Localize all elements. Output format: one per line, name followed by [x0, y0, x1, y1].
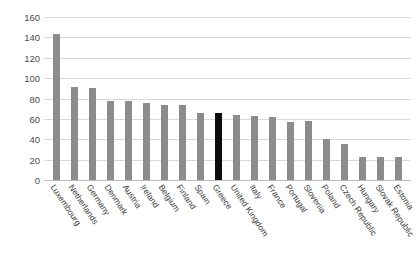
x-axis-labels: LuxembourgNetherlandsGermanyDenmarkAustr…: [44, 181, 411, 260]
x-label-slot: Austria: [119, 181, 137, 260]
y-tick-label: 40: [2, 135, 40, 144]
bar-czech-republic: [341, 144, 348, 180]
x-label-slot: Portugal: [282, 181, 300, 260]
bar-germany: [89, 88, 96, 180]
bar-poland: [323, 139, 330, 180]
bar-italy: [251, 116, 258, 180]
bar-spain: [197, 113, 204, 180]
bar-slovak-republic: [377, 157, 384, 180]
bar-slot: [246, 17, 264, 180]
x-label-slot: Hungary: [354, 181, 372, 260]
bar-netherlands: [71, 87, 78, 180]
bar-slot: [372, 17, 390, 180]
y-tick-label: 100: [2, 74, 40, 83]
bar-austria: [125, 101, 132, 180]
y-tick-label: 60: [2, 114, 40, 123]
bar-luxembourg: [53, 34, 60, 180]
bar-slot: [336, 17, 354, 180]
bar-denmark: [107, 101, 114, 180]
bar-belgium: [161, 105, 168, 180]
bar-slot: [264, 17, 282, 180]
x-label-slot: Netherlands: [65, 181, 83, 260]
bar-chart: 020406080100120140160 LuxembourgNetherla…: [0, 0, 419, 260]
x-label-slot: United Kingdom: [227, 181, 245, 260]
bar-slot: [83, 17, 101, 180]
x-tick-label-italy: Italy: [247, 183, 263, 201]
bar-slot: [173, 17, 191, 180]
y-axis-labels: 020406080100120140160: [0, 0, 40, 260]
bar-slot: [354, 17, 372, 180]
bar-slot: [101, 17, 119, 180]
bar-portugal: [287, 122, 294, 180]
bar-estonia: [395, 157, 402, 180]
bar-slot: [227, 17, 245, 180]
x-label-slot: Italy: [246, 181, 264, 260]
bar-hungary: [359, 157, 366, 180]
x-label-slot: Ireland: [137, 181, 155, 260]
bar-greece: [215, 113, 222, 180]
bar-slot: [137, 17, 155, 180]
bar-finland: [179, 105, 186, 180]
x-label-slot: Czech Republic: [336, 181, 354, 260]
bar-slot: [300, 17, 318, 180]
x-label-slot: Germany: [83, 181, 101, 260]
bar-slot: [65, 17, 83, 180]
x-label-slot: Estonia: [390, 181, 408, 260]
bar-united-kingdom: [233, 115, 240, 180]
bar-slot: [191, 17, 209, 180]
y-tick-label: 80: [2, 94, 40, 103]
y-tick-label: 20: [2, 155, 40, 164]
y-tick-label: 120: [2, 53, 40, 62]
y-tick-label: 160: [2, 13, 40, 22]
y-tick-label: 0: [2, 176, 40, 185]
bar-slot: [282, 17, 300, 180]
bar-slot: [209, 17, 227, 180]
bar-slot: [318, 17, 336, 180]
bar-slot: [47, 17, 65, 180]
x-label-slot: Poland: [318, 181, 336, 260]
bar-slot: [119, 17, 137, 180]
x-label-slot: Belgium: [155, 181, 173, 260]
bar-france: [269, 117, 276, 180]
y-tick-label: 140: [2, 33, 40, 42]
x-label-slot: Greece: [209, 181, 227, 260]
x-label-slot: France: [264, 181, 282, 260]
x-label-slot: Slovak Republic: [372, 181, 390, 260]
bar-ireland: [143, 103, 150, 180]
x-label-slot: Luxembourg: [47, 181, 65, 260]
x-label-slot: Finland: [173, 181, 191, 260]
bar-slovenia: [305, 121, 312, 180]
x-label-slot: Slovenia: [300, 181, 318, 260]
x-label-slot: Spain: [191, 181, 209, 260]
x-tick-label-estonia: Estonia: [391, 183, 414, 212]
bar-series: [44, 17, 411, 180]
x-label-slot: Denmark: [101, 181, 119, 260]
bar-slot: [155, 17, 173, 180]
bar-slot: [390, 17, 408, 180]
